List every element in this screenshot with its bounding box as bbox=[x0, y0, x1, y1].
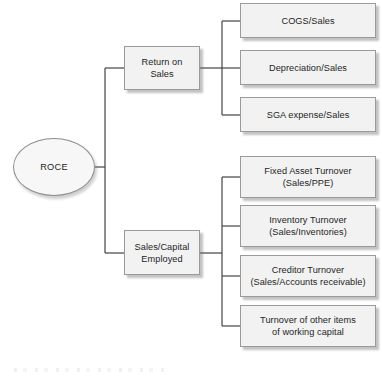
node-inventory-turnover: Inventory Turnover (Sales/Inventories) bbox=[240, 205, 376, 247]
node-fixed-asset-turnover-line1: Fixed Asset Turnover bbox=[264, 165, 351, 177]
node-creditor-turnover-line1: Creditor Turnover bbox=[250, 264, 365, 276]
node-other-working-capital-turnover: Turnover of other items of working capit… bbox=[240, 305, 376, 347]
node-cogs-sales: COGS/Sales bbox=[240, 3, 376, 38]
node-depreciation-sales: Depreciation/Sales bbox=[240, 50, 376, 85]
node-cogs-sales-line1: COGS/Sales bbox=[281, 15, 334, 27]
scan-edge-artifact bbox=[14, 368, 164, 372]
node-sales-capital-employed-line2: Employed bbox=[135, 253, 190, 265]
node-sga-expense-sales-line1: SGA expense/Sales bbox=[267, 109, 350, 121]
node-sales-capital-employed: Sales/Capital Employed bbox=[124, 230, 200, 275]
roce-decomposition-diagram: ROCE Return on Sales Sales/Capital Emplo… bbox=[0, 0, 382, 377]
node-sga-expense-sales: SGA expense/Sales bbox=[240, 97, 376, 132]
node-fixed-asset-turnover: Fixed Asset Turnover (Sales/PPE) bbox=[240, 156, 376, 198]
node-return-on-sales-line2: Sales bbox=[142, 68, 183, 80]
node-other-working-capital-turnover-line1: Turnover of other items bbox=[260, 314, 356, 326]
node-creditor-turnover: Creditor Turnover (Sales/Accounts receiv… bbox=[240, 255, 376, 297]
node-inventory-turnover-line1: Inventory Turnover bbox=[269, 214, 347, 226]
node-sales-capital-employed-line1: Sales/Capital bbox=[135, 241, 190, 253]
node-return-on-sales-line1: Return on bbox=[142, 56, 183, 68]
node-inventory-turnover-line2: (Sales/Inventories) bbox=[269, 226, 347, 238]
node-creditor-turnover-line2: (Sales/Accounts receivable) bbox=[250, 276, 365, 288]
node-other-working-capital-turnover-line2: of working capital bbox=[260, 326, 356, 338]
node-roce: ROCE bbox=[13, 138, 95, 196]
node-depreciation-sales-line1: Depreciation/Sales bbox=[269, 62, 347, 74]
node-fixed-asset-turnover-line2: (Sales/PPE) bbox=[264, 177, 351, 189]
node-roce-label: ROCE bbox=[40, 162, 68, 172]
node-return-on-sales: Return on Sales bbox=[124, 46, 200, 90]
